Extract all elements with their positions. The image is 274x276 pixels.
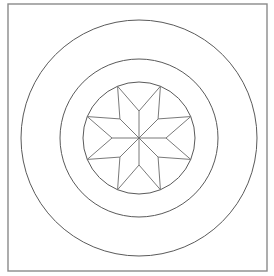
star-edge bbox=[139, 165, 160, 190]
eight-pointed-star bbox=[87, 86, 190, 189]
star-edge bbox=[87, 117, 120, 119]
star-spoke bbox=[120, 138, 139, 157]
star-edge bbox=[87, 138, 112, 159]
star-edge bbox=[87, 117, 112, 138]
star-edge bbox=[166, 138, 191, 159]
star-edge bbox=[118, 157, 120, 190]
star-spoke bbox=[139, 119, 158, 138]
star-edge bbox=[166, 117, 191, 138]
star-edge bbox=[158, 86, 160, 119]
star-edge bbox=[158, 157, 160, 190]
star-edge bbox=[139, 86, 160, 111]
star-edge bbox=[118, 86, 139, 111]
square-frame bbox=[8, 4, 267, 271]
star-in-circles-drawing bbox=[0, 0, 274, 276]
star-edge bbox=[158, 157, 191, 159]
star-edge bbox=[158, 117, 191, 119]
star-spoke bbox=[139, 138, 158, 157]
star-spoke bbox=[120, 119, 139, 138]
star-edge bbox=[87, 157, 120, 159]
star-edge bbox=[118, 165, 139, 190]
star-edge bbox=[118, 86, 120, 119]
